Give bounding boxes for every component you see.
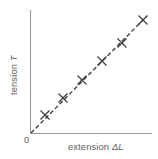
x-axis-label-prefix: extension (68, 142, 112, 152)
data-point-marker (98, 57, 107, 66)
y-axis-label: tension T (9, 54, 19, 95)
trend-line (31, 16, 147, 133)
y-axis-label-symbol: T (9, 54, 19, 61)
tension-extension-chart: 0 extension ΔL tension T (0, 0, 158, 159)
y-axis-label-prefix: tension (9, 61, 19, 95)
x-axis-label-symbol: ΔL (111, 142, 124, 152)
origin-label: 0 (24, 135, 29, 145)
data-point-marker (139, 16, 148, 25)
data-point-marker (78, 76, 87, 85)
data-point-marker (118, 39, 127, 48)
x-axis-label: extension ΔL (68, 142, 124, 152)
plot-area: 0 extension ΔL tension T (0, 0, 158, 159)
